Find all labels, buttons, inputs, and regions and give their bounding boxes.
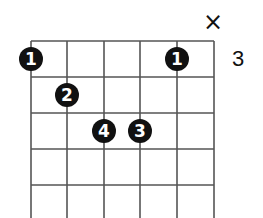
finger-number: 4	[98, 121, 110, 141]
finger-dot: 4	[92, 119, 116, 143]
chord-diagram: 11243	[0, 0, 263, 218]
finger-dot: 2	[55, 83, 79, 107]
finger-number: 2	[61, 85, 73, 105]
finger-dot: 1	[165, 47, 189, 71]
finger-number: 1	[171, 49, 183, 69]
fretboard-grid	[31, 41, 214, 218]
muted-string-marker: ×	[203, 10, 223, 34]
base-fret-label: 3	[232, 46, 244, 72]
finger-dot: 1	[19, 47, 43, 71]
finger-number: 1	[25, 49, 37, 69]
finger-dot: 3	[128, 119, 152, 143]
finger-number: 3	[134, 121, 146, 141]
